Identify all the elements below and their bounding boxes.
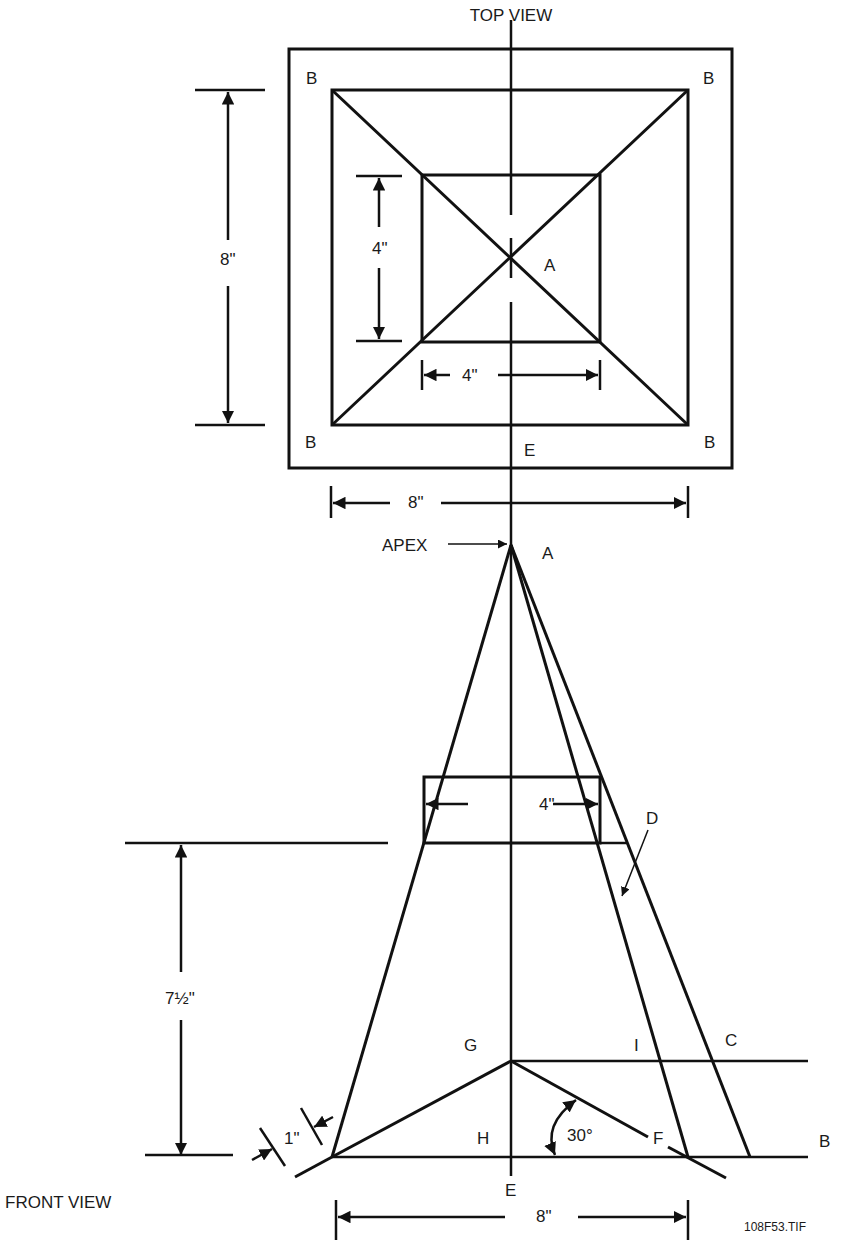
dim-label-1-inch: 1"	[284, 1130, 300, 1147]
label-h: H	[477, 1130, 489, 1147]
front-apex-label: A	[542, 545, 553, 562]
edge-left	[332, 545, 511, 1157]
top-view-e-label: E	[524, 442, 535, 459]
flange-arrow-2	[314, 1117, 333, 1127]
drawing-canvas	[0, 0, 843, 1253]
front-view-title: FRONT VIEW	[5, 1194, 111, 1211]
flange-tick-2	[301, 1108, 322, 1145]
top-view-title: TOP VIEW	[470, 7, 553, 24]
label-g: G	[464, 1037, 477, 1054]
file-tag: 108F53.TIF	[744, 1221, 806, 1233]
dim-label-7-half: 7½"	[165, 990, 195, 1007]
dim-label-4-horizontal: 4"	[462, 367, 478, 384]
edge-right-inner	[511, 545, 688, 1157]
top-view-apex-label: A	[544, 257, 555, 274]
dim-label-4-vertical: 4"	[372, 240, 388, 257]
apex-callout-label: APEX	[382, 537, 427, 554]
corner-label-b-tl: B	[306, 70, 317, 87]
corner-label-b-tr: B	[703, 70, 714, 87]
dim-label-8-vertical: 8"	[220, 251, 236, 268]
dim-label-front-4: 4"	[539, 796, 555, 813]
edge-right-outer	[511, 545, 750, 1157]
label-d: D	[646, 810, 658, 827]
line-f-flange	[668, 1147, 726, 1178]
flange-arrow-1	[252, 1149, 272, 1160]
front-view	[125, 540, 808, 1240]
corner-label-b-bl: B	[305, 434, 316, 451]
flange-tick-1	[260, 1128, 285, 1166]
label-i: I	[634, 1037, 639, 1054]
top-view	[195, 20, 732, 540]
corner-label-b-br: B	[704, 434, 715, 451]
dim-label-bottom-8: 8"	[536, 1208, 552, 1225]
line-left-flange	[295, 1157, 332, 1177]
label-e: E	[505, 1182, 516, 1199]
label-c: C	[725, 1032, 737, 1049]
dim-label-30-deg: 30°	[567, 1127, 593, 1144]
label-f: F	[653, 1130, 663, 1147]
label-b: B	[819, 1133, 830, 1150]
dim-label-8-horizontal: 8"	[408, 494, 424, 511]
